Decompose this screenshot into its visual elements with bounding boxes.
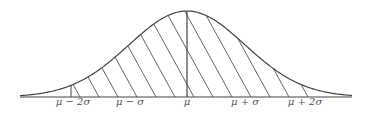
- hatched-area: [12, 7, 366, 97]
- label-mu-minus-2sigma: μ − 2σ: [56, 96, 90, 107]
- label-mu-plus-sigma: μ + σ: [231, 96, 259, 107]
- label-mu-plus-2sigma: μ + 2σ: [288, 96, 322, 107]
- label-mu: μ: [184, 96, 191, 107]
- label-mu-minus-sigma: μ − σ: [116, 96, 144, 107]
